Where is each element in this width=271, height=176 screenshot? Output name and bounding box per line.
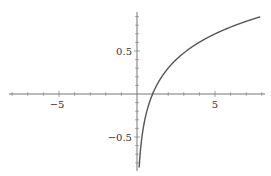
x-tick-label-minus5: −5 [50, 99, 65, 110]
plot: −5 5 0.5 −0.5 [0, 0, 271, 176]
y-axis [134, 12, 140, 171]
y-tick-label-minus0.5: −0.5 [108, 132, 132, 143]
log-curve [139, 17, 260, 168]
y-tick-label-0.5: 0.5 [116, 46, 132, 57]
x-tick-label-5: 5 [212, 99, 218, 110]
